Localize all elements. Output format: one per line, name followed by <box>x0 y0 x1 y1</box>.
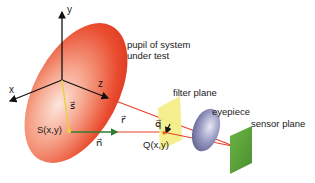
optical-setup-diagram <box>0 0 315 183</box>
sensor-plane <box>230 126 252 174</box>
eyepiece-label: eyepiece <box>212 106 250 117</box>
point-s-label: S(x,y) <box>37 124 62 135</box>
sensor-plane-label: sensor plane <box>251 118 305 129</box>
filter-plane-label: filter plane <box>173 87 217 98</box>
vector-n-label: n⃗ <box>96 137 102 148</box>
axis-y-label: y <box>67 4 72 15</box>
vector-s-label: s⃗ <box>70 100 75 111</box>
vector-r-label: r⃗ <box>121 114 125 125</box>
point-s-marker <box>67 129 71 133</box>
pupil-label-line2: under test <box>127 50 169 61</box>
pupil-ellipse <box>3 6 149 180</box>
pupil-label-line1: pupil of system <box>127 39 190 50</box>
vector-q-label: q⃗ <box>155 118 161 129</box>
point-q-label: Q(x,y) <box>143 139 169 150</box>
axis-x-label: x <box>9 84 14 95</box>
axis-z-label: z <box>98 78 103 89</box>
